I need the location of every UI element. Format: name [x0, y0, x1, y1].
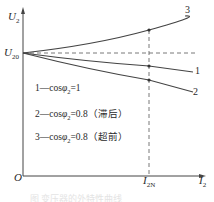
- chart-canvas: [0, 0, 214, 202]
- curve-1-unity: [23, 53, 193, 72]
- curve-3-label: 3: [185, 4, 190, 15]
- x-axis-label: I2: [199, 174, 206, 189]
- curve-3-rated-point: [147, 28, 150, 31]
- curve-1-rated-point: [147, 64, 150, 67]
- y-tick-u20: U20: [4, 46, 19, 61]
- curve-2-label: 2: [193, 86, 198, 97]
- figure-caption: 图 变压器的外特性曲线: [30, 192, 122, 202]
- curve-3-leading: [23, 16, 190, 53]
- x-tick-i2n: I2N: [143, 174, 155, 189]
- curve-1-label: 1: [195, 65, 200, 76]
- curve-2-rated-point: [147, 78, 150, 81]
- legend-item-1: 1—cosφ2=1: [35, 83, 81, 95]
- legend-item-2: 2—cosφ2=0.8（滞后）: [35, 106, 128, 121]
- y-axis-arrow: [21, 7, 25, 14]
- y-axis-label: U2: [8, 10, 19, 25]
- origin-label: O: [14, 171, 22, 183]
- legend-item-3: 3—cosφ2=0.8（超前）: [35, 129, 128, 144]
